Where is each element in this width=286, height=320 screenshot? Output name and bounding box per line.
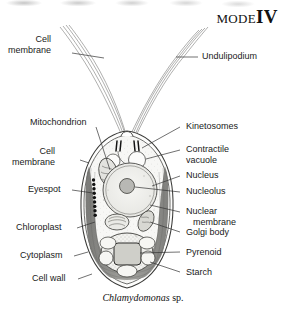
label-cytoplasm: Cytoplasm (20, 250, 63, 261)
label-line-1: Nucleus (186, 170, 219, 180)
label-cell-membrane-flagellum: Cell membrane (8, 34, 51, 56)
label-nucleolus: Nucleolus (186, 186, 226, 197)
label-golgi-body: Golgi body (186, 227, 229, 238)
label-mitochondrion: Mitochondrion (30, 117, 87, 128)
label-line-1: Cell (36, 34, 52, 44)
caption-qualifier: sp. (172, 292, 183, 303)
label-cell-membrane-body: Cell membrane (12, 146, 55, 168)
leader-kinetosomes (142, 127, 180, 148)
leader-cell-wall (78, 274, 92, 279)
leader-cytoplasm (74, 252, 88, 256)
label-cell-wall: Cell wall (32, 273, 66, 284)
label-nucleus: Nucleus (186, 170, 219, 181)
caption-genus: Chlamydomonas (102, 292, 169, 303)
label-starch: Starch (186, 267, 212, 278)
label-line-1: Golgi body (186, 227, 229, 237)
label-eyespot: Eyespot (28, 184, 61, 195)
label-chloroplast: Chloroplast (16, 222, 62, 233)
figure-root: MODEIV (0, 0, 286, 320)
label-line-1: Starch (186, 267, 212, 277)
leader-cell-membrane-flagellum (72, 53, 104, 58)
label-line-1: Cytoplasm (20, 250, 63, 260)
label-kinetosomes: Kinetosomes (186, 121, 238, 132)
label-undulipodium: Undulipodium (202, 51, 257, 62)
label-line-2: vacuole (186, 155, 229, 166)
label-line-1: Mitochondrion (30, 117, 87, 127)
nucleolus-body (120, 179, 135, 194)
label-nuclear-membrane: Nuclear membrane (186, 206, 236, 228)
label-line-1: Kinetosomes (186, 121, 238, 131)
label-line-1: Cell wall (32, 273, 66, 283)
label-pyrenoid: Pyrenoid (186, 247, 222, 258)
label-line-1: Cell (40, 146, 56, 156)
label-line-2: membrane (12, 157, 55, 168)
label-contractile-vacuole: Contractile vacuole (186, 144, 229, 166)
label-line-1: Nuclear (186, 206, 217, 216)
label-line-1: Chloroplast (16, 222, 62, 232)
golgi-body-shape (105, 214, 129, 230)
label-line-1: Contractile (186, 144, 229, 154)
label-line-1: Nucleolus (186, 186, 226, 196)
label-line-2: membrane (8, 45, 51, 56)
label-line-1: Undulipodium (202, 51, 257, 61)
figure-caption: Chlamydomonas sp. (0, 292, 286, 303)
label-line-1: Pyrenoid (186, 247, 222, 257)
leader-cell-membrane-body (80, 160, 89, 163)
label-line-1: Eyespot (28, 184, 61, 194)
pyrenoid-core (114, 243, 141, 265)
